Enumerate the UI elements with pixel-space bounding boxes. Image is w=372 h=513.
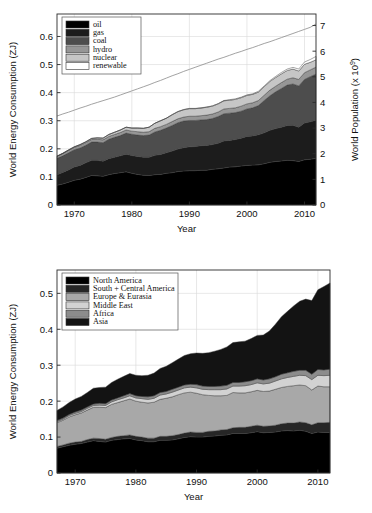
figure-world-energy-by-source: 1970198019902000201000.10.20.30.40.50.60… [0, 0, 372, 256]
legend-swatch-north-america [66, 277, 89, 284]
ytick-label: 0.2 [40, 143, 53, 154]
ytick-label: 0.2 [40, 396, 53, 407]
y2-paren: ) [349, 58, 360, 61]
xtick-label: 1970 [65, 476, 86, 487]
ytick-label: 0.5 [40, 288, 53, 299]
y2tick-label: 3 [320, 122, 325, 133]
y2tick-label: 2 [320, 148, 325, 159]
xtick-label: 1980 [125, 476, 146, 487]
legend-swatch-africa [66, 310, 89, 317]
x-axis-label: Year [177, 223, 196, 234]
y2tick-label: 4 [320, 97, 325, 108]
legend-swatch-renewable [66, 63, 89, 70]
xtick-label: 1990 [179, 208, 200, 219]
y-axis-label: World Energy Consumption (ZJ) [7, 42, 18, 178]
xtick-label: 1970 [64, 208, 85, 219]
y-axis-label: World Energy Consumption (ZJ) [7, 304, 18, 440]
x-axis-label: Year [184, 491, 203, 502]
xtick-label: 1980 [121, 208, 142, 219]
legend-swatch-coal [66, 38, 89, 45]
ytick-label: 0.4 [40, 324, 53, 335]
ytick-label: 0.1 [40, 171, 53, 182]
ytick-label: 0.5 [40, 59, 53, 70]
legend: oilgascoalhydronuclearrenewable [62, 17, 141, 74]
y2tick-label: 0 [320, 199, 325, 210]
legend-swatch-oil [66, 21, 89, 28]
figure-world-energy-by-region: 1970198019902000201000.10.20.30.40.5Year… [0, 256, 372, 513]
legend-swatch-hydro [66, 46, 89, 53]
legend-item-asia[interactable]: Asia [66, 317, 108, 326]
xtick-label: 2000 [247, 476, 268, 487]
legend-swatch-europe-eurasia [66, 294, 89, 301]
ytick-label: 0.1 [40, 431, 53, 442]
y2tick-label: 5 [320, 71, 325, 82]
xtick-label: 2000 [236, 208, 257, 219]
ytick-label: 0.3 [40, 115, 53, 126]
legend-swatch-nuclear [66, 54, 89, 61]
chart-world-energy-by-region: 1970198019902000201000.10.20.30.40.5Year… [0, 256, 372, 513]
y2-axis-label: World Population (x 109) [349, 58, 360, 161]
legend-label-renewable: renewable [93, 61, 127, 70]
legend-swatch-asia [66, 319, 89, 326]
ytick-label: 0.3 [40, 360, 53, 371]
y2tick-label: 7 [320, 20, 325, 31]
chart-world-energy-by-source: 1970198019902000201000.10.20.30.40.50.60… [0, 0, 372, 256]
legend-swatch-middle-east [66, 302, 89, 309]
legend-label-asia: Asia [93, 317, 108, 326]
legend-item-renewable[interactable]: renewable [66, 61, 127, 70]
y2tick-label: 1 [320, 174, 325, 185]
xtick-label: 1990 [186, 476, 207, 487]
ytick-label: 0 [48, 467, 53, 478]
legend: North AmericaSouth + Central AmericaEuro… [62, 273, 178, 330]
legend-swatch-gas [66, 29, 89, 36]
ytick-label: 0.4 [40, 87, 53, 98]
legend-swatch-south-central-america [66, 285, 89, 292]
xtick-label: 2010 [294, 208, 315, 219]
y2tick-label: 6 [320, 46, 325, 57]
ytick-label: 0.6 [40, 31, 53, 42]
xtick-label: 2010 [307, 476, 328, 487]
ytick-label: 0 [48, 199, 53, 210]
